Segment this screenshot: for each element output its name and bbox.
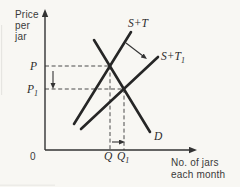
price-p1-label: P1: [26, 83, 38, 98]
supply-demand-tax-diagram: Price per jar No. of jars each month 0 P…: [0, 0, 240, 187]
demand-label: D: [153, 130, 163, 142]
quantity-q-label: Q: [104, 150, 113, 162]
supply-shift-arrow-icon: [126, 43, 143, 56]
demand-curve: [94, 40, 150, 132]
price-p-label: P: [29, 60, 37, 72]
quantity-q1-label: Q1: [117, 150, 129, 165]
x-axis-title-line1: No. of jars: [171, 157, 219, 168]
supply-plus-tax1-label: S+T1: [161, 50, 185, 65]
y-axis-title-line1: Price: [15, 9, 39, 20]
supply-plus-tax-label: S+T: [128, 17, 150, 29]
scan-artifact-bottom-edge: [0, 185, 55, 186]
origin-label: 0: [30, 151, 36, 162]
x-axis-title-line2: each month: [171, 169, 225, 180]
y-axis-title-line2: per: [15, 20, 31, 31]
scan-artifact-left-edge: [1, 25, 2, 95]
y-axis-title-line3: jar: [14, 31, 27, 42]
